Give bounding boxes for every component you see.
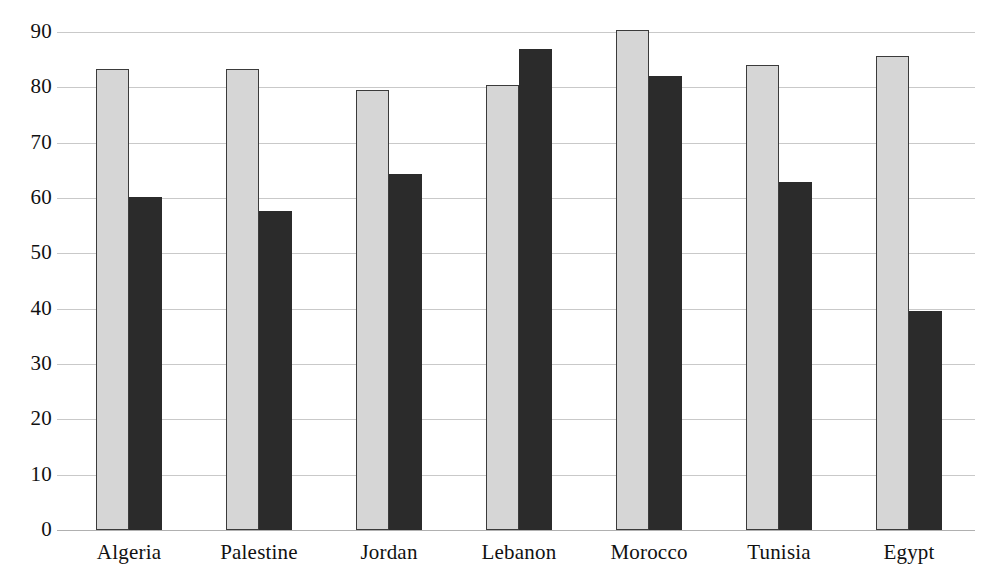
bar — [779, 182, 812, 530]
y-tick-label: 10 — [6, 464, 52, 485]
category-label: Egypt — [839, 537, 979, 567]
category-label: Jordan — [319, 537, 459, 567]
y-tick-label: 60 — [6, 187, 52, 208]
x-axis-category-labels: AlgeriaPalestineJordanLebanonMoroccoTuni… — [57, 537, 975, 573]
bar — [519, 49, 552, 530]
bars — [57, 32, 975, 530]
bar — [746, 65, 779, 530]
bar-chart: 0102030405060708090 AlgeriaPalestineJord… — [0, 0, 996, 586]
category-label: Algeria — [59, 537, 199, 567]
bar — [876, 56, 909, 530]
category-label: Tunisia — [709, 537, 849, 567]
y-tick-label: 20 — [6, 408, 52, 429]
y-tick-label: 50 — [6, 242, 52, 263]
y-tick-label: 70 — [6, 132, 52, 153]
bar — [356, 90, 389, 530]
bar — [909, 311, 942, 530]
bar — [96, 69, 129, 530]
y-axis-tick-labels: 0102030405060708090 — [0, 0, 52, 586]
bar — [259, 211, 292, 530]
bar — [649, 76, 682, 530]
category-label: Morocco — [579, 537, 719, 567]
bar — [616, 30, 649, 530]
category-label: Lebanon — [449, 537, 589, 567]
y-tick-label: 30 — [6, 353, 52, 374]
axis-baseline — [57, 530, 975, 531]
category-label: Palestine — [189, 537, 329, 567]
y-tick-label: 0 — [6, 519, 52, 540]
bar — [226, 69, 259, 530]
bar — [486, 85, 519, 530]
y-tick-label: 40 — [6, 298, 52, 319]
bar — [129, 197, 162, 530]
plot-area — [57, 32, 975, 530]
y-tick-label: 90 — [6, 21, 52, 42]
bar — [389, 174, 422, 530]
y-tick-label: 80 — [6, 76, 52, 97]
